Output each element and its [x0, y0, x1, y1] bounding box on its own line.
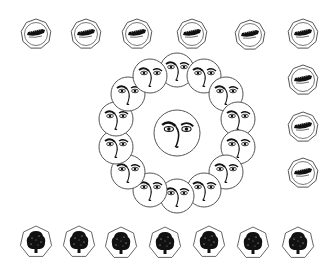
tree-icon — [62, 225, 96, 259]
tree-icon — [236, 226, 270, 260]
boat-icon — [287, 18, 319, 50]
boat-icon — [287, 157, 319, 189]
tree-icon — [192, 225, 226, 259]
boat-icon — [121, 18, 153, 50]
boat-icon — [20, 18, 52, 50]
tree-icon — [104, 226, 138, 260]
boat-icon — [287, 111, 319, 143]
tree-icon — [19, 225, 53, 259]
ring-face-icon — [132, 58, 168, 94]
center-face-icon — [153, 109, 201, 157]
boat-icon — [176, 18, 208, 50]
boat-icon — [234, 19, 266, 51]
tree-icon — [148, 226, 182, 260]
boat-icon — [70, 18, 102, 50]
boat-icon — [287, 64, 319, 96]
tree-icon — [281, 226, 315, 260]
